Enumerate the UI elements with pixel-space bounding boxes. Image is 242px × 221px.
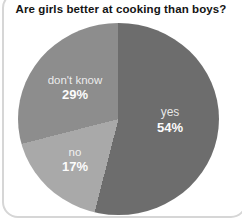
pie-chart: [18, 23, 219, 215]
pie-label-yes-text: yes: [157, 105, 183, 120]
pie-label-dont-know: don't know 29%: [48, 73, 103, 104]
pie-label-yes-value: 54%: [157, 120, 183, 136]
pie-label-dont-know-value: 29%: [48, 87, 103, 103]
pie-label-no: no 17%: [62, 145, 88, 176]
pie-label-dont-know-text: don't know: [48, 73, 103, 87]
pie-label-no-value: 17%: [62, 159, 88, 175]
pie-label-yes: yes 54%: [157, 105, 183, 136]
pie-label-no-text: no: [62, 145, 88, 159]
chart-title: Are girls better at cooking than boys?: [0, 3, 242, 15]
